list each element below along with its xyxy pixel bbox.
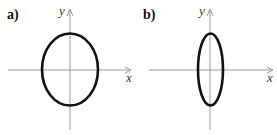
panel-a-label: a) xyxy=(7,7,19,23)
panel-b-label: b) xyxy=(143,7,156,23)
y-axis-label: y xyxy=(197,3,205,18)
x-axis-label: x xyxy=(266,70,273,85)
panel-b: b) x y xyxy=(143,3,273,130)
panel-a: a) x y xyxy=(7,3,132,130)
y-axis-label: y xyxy=(57,3,65,18)
x-axis-label: x xyxy=(125,70,132,85)
diagram-canvas: a) x y b) x y xyxy=(0,0,277,135)
